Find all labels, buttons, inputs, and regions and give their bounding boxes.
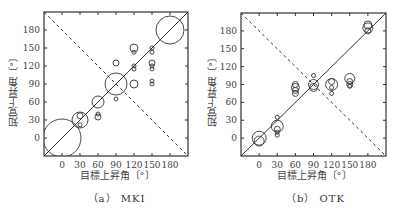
y-tick-label: 0 <box>231 133 237 143</box>
y-tick-label: 120 <box>23 61 40 71</box>
panel-mki: 03060901201501800306090120150180 知覚上昇角〔°… <box>0 0 197 216</box>
scatter-plot-mki: 03060901201501800306090120150180 <box>0 0 197 216</box>
x-axis-label: 目標上昇角〔°〕 <box>44 167 190 182</box>
data-point <box>114 97 118 101</box>
y-tick-label: 30 <box>226 115 238 125</box>
y-tick-label: 60 <box>29 97 41 107</box>
data-point <box>113 60 119 66</box>
scatter-plot-otk: 03060901201501800306090120150180 <box>197 0 394 216</box>
data-point <box>312 74 316 78</box>
y-tick-label: 90 <box>29 79 41 89</box>
y-tick-label: 60 <box>226 97 238 107</box>
y-axis-label: 知覚上昇角〔°〕 <box>6 45 21 135</box>
y-axis-label: 知覚上昇角〔°〕 <box>205 45 220 135</box>
y-tick-label: 90 <box>226 80 238 90</box>
y-tick-label: 150 <box>220 44 237 54</box>
data-point <box>150 50 154 54</box>
y-tick-label: 30 <box>29 115 41 125</box>
y-tick-label: 0 <box>34 133 40 143</box>
caption-mki: （a） MKI <box>18 190 215 205</box>
y-tick-label: 150 <box>23 43 40 53</box>
data-point <box>77 113 83 119</box>
data-point <box>130 80 138 88</box>
data-point <box>275 115 279 119</box>
data-point <box>95 114 101 120</box>
caption-otk: （b） OTK <box>217 190 395 205</box>
data-point <box>329 79 335 85</box>
y-tick-label: 120 <box>220 62 237 72</box>
data-point <box>78 123 82 127</box>
panel-otk: 03060901201501800306090120150180 知覚上昇角〔°… <box>197 0 394 216</box>
data-point <box>330 91 334 95</box>
data-point <box>330 85 334 89</box>
y-tick-label: 180 <box>23 25 40 35</box>
data-point <box>130 44 138 52</box>
x-axis-label: 目標上昇角〔°〕 <box>241 167 387 182</box>
y-tick-label: 180 <box>220 26 237 36</box>
